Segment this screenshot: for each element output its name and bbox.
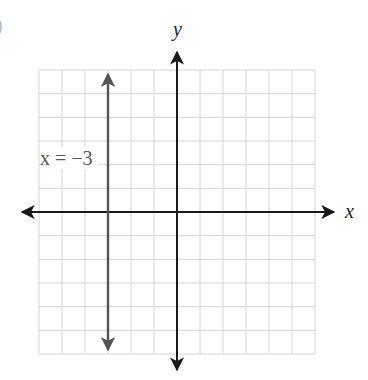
x-axis-label: x	[344, 200, 354, 222]
coordinate-plane: y x x = −3	[0, 0, 368, 380]
y-axis-label: y	[171, 18, 182, 41]
line-label: x = −3	[40, 147, 93, 169]
